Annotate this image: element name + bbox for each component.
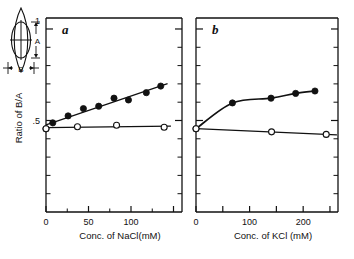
panel-letter-b: b — [212, 22, 219, 37]
fit-curve-filled-circles-b — [196, 91, 315, 129]
y-tick-label-0-5: .5 — [32, 116, 40, 126]
data-point-filled-circles-a-5 — [111, 95, 117, 101]
data-point-open-circles-a-2 — [114, 122, 120, 128]
dim-b-arrowhead-right — [30, 66, 34, 70]
data-point-filled-circles-a-2 — [65, 113, 71, 119]
data-point-open-circles-b-0 — [193, 126, 199, 132]
x-ticks-b: 0100200 — [193, 206, 329, 227]
data-point-open-circles-a-1 — [74, 124, 80, 130]
data-point-open-circles-b-2 — [323, 131, 329, 137]
data-point-open-circles-b-1 — [269, 129, 275, 135]
plot-frame-b — [196, 18, 338, 212]
x-tick-label-100-a: 100 — [123, 217, 138, 227]
x-tick-label-50-a: 50 — [83, 217, 93, 227]
data-point-filled-circles-a-3 — [80, 105, 86, 111]
dim-a-label: A — [35, 37, 41, 46]
data-point-filled-circles-b-4 — [312, 88, 318, 94]
data-point-filled-circles-a-6 — [125, 97, 131, 103]
fit-line-open-circles-b — [196, 129, 337, 135]
x-tick-label-200-b: 200 — [296, 217, 311, 227]
fit-line-filled-circles-a — [46, 84, 168, 125]
panel-letter-a: a — [62, 22, 69, 37]
data-point-filled-circles-b-2 — [268, 95, 274, 101]
x-ticks-a: 050100 — [43, 206, 173, 227]
dim-b-arrowhead-left — [8, 66, 12, 70]
data-point-filled-circles-b-3 — [293, 90, 299, 96]
figure-root: A B Ratio of B/A 1 .5 050100Conc. of NaC… — [0, 0, 354, 259]
x-tick-label-0-b: 0 — [193, 217, 198, 227]
panel-b: 0100200Conc. of KCl (mM)b — [193, 18, 338, 241]
data-point-filled-circles-a-1 — [50, 120, 56, 126]
x-axis-label-a: Conc. of NaCl(mM) — [79, 230, 160, 241]
dim-b-label: B — [18, 65, 23, 74]
data-point-open-circles-a-3 — [161, 124, 167, 130]
figure-canvas: A B Ratio of B/A 1 .5 050100Conc. of NaC… — [0, 0, 354, 259]
x-axis-label-b: Conc. of KCl (mM) — [234, 230, 312, 241]
data-point-filled-circles-a-7 — [143, 90, 149, 96]
panel-a: 050100Conc. of NaCl(mM)a — [43, 18, 182, 241]
y-ticks-a — [46, 29, 182, 194]
fit-line-open-circles-a — [46, 126, 171, 128]
y-axis-label: Ratio of B/A — [13, 92, 24, 143]
y-tick-label-1: 1 — [35, 16, 40, 26]
x-tick-label-0-a: 0 — [43, 217, 48, 227]
data-point-open-circles-a-0 — [43, 126, 49, 132]
x-tick-label-100-b: 100 — [242, 217, 257, 227]
data-point-filled-circles-a-8 — [158, 83, 164, 89]
dim-a-arrowhead-bottom — [34, 54, 38, 58]
data-point-filled-circles-a-4 — [96, 103, 102, 109]
data-point-filled-circles-b-1 — [229, 100, 235, 106]
